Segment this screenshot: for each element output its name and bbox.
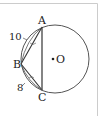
diagram-frame: A B C O 10 8 [0,0,100,116]
length-ab: 10 [9,31,22,42]
circle-diagram: A B C O 10 8 [0,0,100,116]
label-b: B [13,58,21,71]
center-dot [52,58,55,61]
label-a: A [37,14,47,27]
label-tick-ab [23,38,27,40]
chord-bc [21,64,42,90]
label-c: C [38,91,46,104]
circle-o [21,25,89,93]
label-o: O [56,53,65,66]
length-bc: 8 [17,82,23,93]
